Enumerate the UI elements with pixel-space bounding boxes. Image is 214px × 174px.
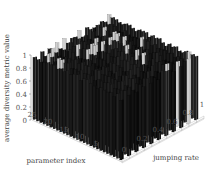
bar (176, 61, 178, 126)
bar (110, 93, 112, 156)
y-tick-label: 1 (200, 101, 204, 109)
bar (164, 71, 166, 136)
bar (46, 63, 48, 126)
bar3d-chart: 00.20.40.60.81 average diversity metric … (0, 0, 214, 174)
x-tick-label: 25 (28, 111, 37, 119)
bar (149, 83, 151, 144)
bar (124, 91, 126, 155)
y-tick-label: 0.4 (152, 126, 164, 134)
bar-side (197, 56, 199, 120)
bar (135, 92, 137, 152)
z-tick-label: 0 (23, 117, 27, 125)
z-tick-label: 0.6 (16, 78, 28, 86)
bar (161, 70, 163, 134)
bar (70, 75, 72, 137)
bar (40, 62, 42, 123)
z-tick-label: 0.8 (16, 65, 27, 73)
z-tick-label: 1 (23, 52, 27, 60)
bar (60, 69, 62, 132)
bar (100, 88, 102, 151)
bar (53, 65, 55, 129)
z-tick-label: 0.4 (16, 91, 28, 99)
x-tick-label: 5 (94, 140, 98, 148)
y-tick-label: 0 (122, 146, 126, 154)
bar (76, 75, 78, 140)
bar (86, 80, 88, 145)
bar (146, 78, 148, 142)
bar (131, 90, 133, 150)
bar (106, 92, 108, 154)
x-tick-label: 10 (76, 133, 85, 141)
bar (43, 62, 45, 124)
y-tick-label: 0.2 (136, 135, 147, 143)
bar (63, 71, 65, 133)
bar (116, 94, 118, 159)
x-tick-label: 15 (60, 126, 69, 134)
bar (194, 56, 196, 120)
bar (93, 86, 95, 148)
y-tick-label: 0.6 (166, 118, 178, 126)
bar (103, 90, 105, 152)
y-tick-label: 0.8 (182, 109, 193, 117)
bar (36, 60, 38, 122)
z-axis: 00.20.40.60.81 average diversity metric … (3, 34, 31, 142)
z-tick-label: 0.2 (16, 104, 27, 112)
bar (73, 74, 75, 138)
bar (113, 97, 115, 157)
x-axis-label: parameter index (27, 157, 86, 165)
bar (56, 69, 58, 130)
bar (127, 95, 129, 156)
bar-side (129, 95, 131, 156)
bars-group (33, 14, 204, 163)
bar-side (182, 66, 184, 128)
bar (179, 66, 181, 128)
y-axis-label: jumping rate (152, 154, 199, 162)
x-tick-label: 20 (44, 118, 53, 126)
bar-side (152, 83, 154, 144)
z-axis-label: average diversity metric value (3, 34, 11, 142)
bar (90, 83, 92, 146)
